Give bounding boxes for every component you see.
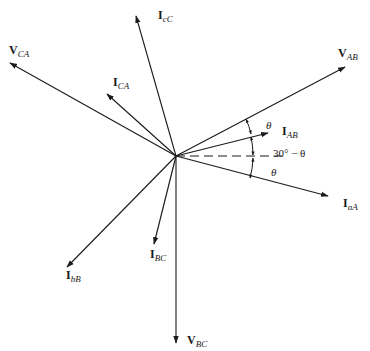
label-VAB: VAB (338, 46, 358, 62)
phasor-diagram: VABIABIaAVCAICAIcCIbBIBCVBC θ30° − θθ (0, 0, 370, 351)
label-IBC: IBC (150, 247, 167, 263)
label-IaA: IaA (343, 196, 358, 212)
phasor-VAB (176, 67, 345, 156)
phasor-IcC (136, 16, 176, 156)
phasor-IBC (154, 156, 176, 244)
label-IAB: IAB (282, 124, 298, 140)
label-VBC: VBC (187, 333, 208, 349)
angle-label-0: θ (266, 119, 272, 131)
arc-theta-lower (250, 158, 253, 178)
phasor-VCA (10, 63, 176, 156)
phasor-arrows (10, 16, 345, 343)
phasor-labels: VABIABIaAVCAICAIcCIbBIBCVBC (9, 8, 358, 349)
angle-label-1: 30° − θ (273, 147, 305, 159)
label-VCA: VCA (9, 43, 30, 59)
phasor-IaA (176, 156, 328, 196)
label-IcC: IcC (158, 8, 174, 24)
angle-label-2: θ (271, 166, 277, 178)
angle-arcs (246, 119, 253, 178)
arc-30-minus-theta (251, 137, 253, 155)
label-IbB: IbB (66, 268, 81, 284)
phasor-IAB (176, 133, 268, 156)
label-ICA: ICA (113, 75, 130, 91)
phasor-IbB (67, 156, 176, 267)
phasor-ICA (107, 94, 176, 156)
arc-theta-upper (246, 119, 251, 134)
